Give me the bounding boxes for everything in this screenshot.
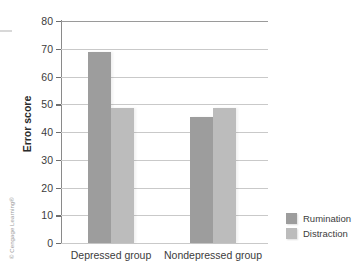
y-axis-tick	[56, 21, 61, 22]
crop-mark	[0, 30, 12, 32]
y-axis-tick	[56, 243, 61, 244]
y-tick-label: 80	[41, 15, 53, 27]
gridline	[61, 243, 268, 244]
y-axis-tick	[56, 215, 61, 216]
figure-chart-error-score: © Cengage Learning® Error score 01020304…	[0, 0, 352, 274]
y-axis-tick	[56, 132, 61, 133]
legend: RuminationDistraction	[286, 213, 351, 239]
y-tick-label: 50	[41, 98, 53, 110]
legend-label-distraction: Distraction	[303, 228, 348, 239]
y-tick-label: 20	[41, 182, 53, 194]
legend-item-rumination: Rumination	[286, 213, 351, 224]
y-tick-label: 60	[41, 71, 53, 83]
y-axis-title: Error score	[21, 81, 33, 167]
y-tick-label: 70	[41, 43, 53, 55]
legend-swatch-rumination	[286, 213, 297, 224]
y-tick-label: 0	[47, 237, 53, 249]
copyright-credit: © Cengage Learning®	[9, 173, 15, 259]
gridline	[61, 21, 268, 22]
plot-area: 01020304050607080 Depressed groupNondepr…	[61, 21, 268, 243]
bar-distraction-depressed-group	[111, 108, 134, 243]
y-tick-label: 40	[41, 126, 53, 138]
legend-swatch-distraction	[286, 228, 297, 239]
x-tick-label: Nondepressed group	[164, 249, 262, 261]
y-axis-tick	[56, 160, 61, 161]
bar-rumination-nondepressed-group	[190, 117, 213, 243]
y-axis-tick	[56, 49, 61, 50]
gridline	[61, 49, 268, 50]
y-axis-tick	[56, 104, 61, 105]
x-tick-label: Depressed group	[71, 249, 152, 261]
y-axis-tick	[56, 77, 61, 78]
legend-item-distraction: Distraction	[286, 228, 351, 239]
bar-rumination-depressed-group	[88, 52, 111, 243]
y-tick-label: 30	[41, 154, 53, 166]
y-axis-tick	[56, 188, 61, 189]
legend-label-rumination: Rumination	[303, 213, 351, 224]
y-tick-label: 10	[41, 209, 53, 221]
bar-distraction-nondepressed-group	[213, 108, 236, 243]
